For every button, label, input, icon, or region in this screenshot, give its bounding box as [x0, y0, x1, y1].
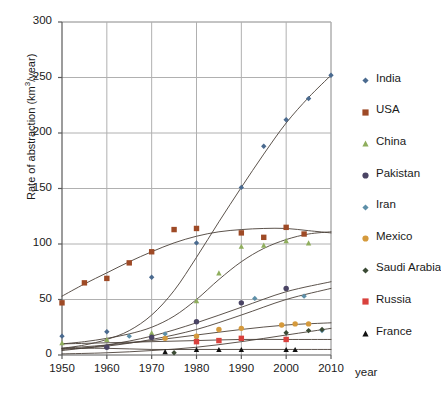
legend-marker-circle-icon: [360, 167, 371, 178]
legend-item-china[interactable]: China: [360, 125, 435, 157]
legend-marker-glyph: [362, 267, 368, 273]
data-point-saudi-arabia: [306, 328, 311, 333]
legend-marker-glyph: [362, 236, 368, 242]
legend-marker-diamond-icon: [360, 199, 371, 210]
legend-item-india[interactable]: India: [360, 62, 435, 94]
data-point-india: [239, 185, 244, 190]
data-point-india: [261, 144, 266, 149]
legend-marker-square-icon: [360, 293, 371, 304]
legend-marker-glyph: [362, 204, 368, 210]
legend-label: India: [376, 72, 401, 84]
legend-label: Mexico: [376, 230, 412, 242]
data-point-usa: [127, 260, 132, 265]
data-point-india: [194, 240, 199, 245]
x-tick-label: 1960: [85, 362, 129, 374]
data-point-usa: [59, 300, 64, 305]
data-point-pakistan: [283, 286, 288, 291]
y-axis-label-exponent: 3: [23, 82, 32, 86]
data-point-mexico: [216, 327, 221, 332]
data-point-russia: [239, 336, 244, 341]
data-point-russia: [283, 337, 288, 342]
legend-item-usa[interactable]: USA: [360, 94, 435, 126]
y-tick-label: 300: [20, 14, 52, 26]
legend-marker-glyph: [362, 172, 368, 178]
y-tick-label: 150: [20, 181, 52, 193]
legend-marker-glyph: [362, 109, 368, 115]
x-tick-label: 2000: [264, 362, 308, 374]
data-point-china: [216, 270, 221, 275]
data-point-usa: [149, 249, 154, 254]
data-point-usa: [301, 231, 306, 236]
legend-marker-glyph: [362, 78, 368, 84]
data-point-mexico: [194, 333, 199, 338]
legend-marker-glyph: [362, 299, 368, 305]
legend-item-iran[interactable]: Iran: [360, 188, 435, 220]
x-tick-label: 1970: [130, 362, 174, 374]
legend-marker-glyph: [362, 141, 368, 147]
legend-item-saudi-arabia[interactable]: Saudi Arabia: [360, 252, 435, 284]
legend-marker-diamond-icon: [360, 72, 371, 83]
y-tick-label: 0: [20, 347, 52, 359]
legend-marker-triangle-icon: [360, 135, 371, 146]
legend-item-pakistan[interactable]: Pakistan: [360, 157, 435, 189]
legend-marker-square-icon: [360, 104, 371, 115]
data-point-russia: [216, 338, 221, 343]
x-axis-label: year: [355, 366, 377, 378]
data-point-pakistan: [239, 300, 244, 305]
data-point-mexico: [292, 321, 297, 326]
x-tick-label: 2010: [309, 362, 353, 374]
y-tick-label: 100: [20, 236, 52, 248]
data-point-china: [261, 243, 266, 248]
legend-item-france[interactable]: France: [360, 315, 435, 347]
data-point-mexico: [162, 336, 167, 341]
data-point-india: [306, 96, 311, 101]
data-point-usa: [82, 280, 87, 285]
legend-label: Saudi Arabia: [376, 261, 441, 273]
data-point-china: [59, 340, 64, 345]
data-point-pakistan: [104, 345, 109, 350]
data-point-usa: [194, 226, 199, 231]
grid-layer: [62, 22, 331, 355]
legend-label: France: [376, 325, 412, 337]
legend-label: Russia: [376, 293, 411, 305]
data-point-india: [59, 333, 64, 338]
data-point-russia: [194, 339, 199, 344]
legend-marker-circle-icon: [360, 230, 371, 241]
data-point-china: [306, 240, 311, 245]
data-point-mexico: [279, 322, 284, 327]
legend-marker-triangle-icon: [360, 325, 371, 336]
data-point-pakistan: [194, 319, 199, 324]
data-point-mexico: [306, 321, 311, 326]
data-point-mexico: [239, 326, 244, 331]
x-tick-label: 1950: [40, 362, 84, 374]
data-point-usa: [283, 225, 288, 230]
data-point-india: [104, 329, 109, 334]
legend-item-mexico[interactable]: Mexico: [360, 220, 435, 252]
axis-tickmarks: [58, 22, 331, 359]
data-point-pakistan: [149, 335, 154, 340]
data-point-india: [149, 275, 154, 280]
legend-label: USA: [376, 103, 400, 115]
y-tick-label: 50: [20, 292, 52, 304]
data-point-iran: [252, 296, 257, 301]
legend-item-russia[interactable]: Russia: [360, 283, 435, 315]
y-tick-label: 200: [20, 125, 52, 137]
y-tick-label: 250: [20, 70, 52, 82]
chart-legend: IndiaUSAChinaPakistanIranMexicoSaudi Ara…: [360, 62, 435, 346]
data-point-usa: [261, 235, 266, 240]
data-point-usa: [239, 230, 244, 235]
legend-label: Iran: [376, 198, 396, 210]
legend-label: China: [376, 135, 406, 147]
x-tick-label: 1980: [175, 362, 219, 374]
data-point-usa: [171, 227, 176, 232]
data-point-usa: [104, 276, 109, 281]
data-point-india: [283, 117, 288, 122]
legend-label: Pakistan: [376, 167, 420, 179]
legend-marker-glyph: [362, 331, 368, 337]
x-tick-label: 1990: [219, 362, 263, 374]
legend-marker-diamond-icon: [360, 262, 371, 273]
